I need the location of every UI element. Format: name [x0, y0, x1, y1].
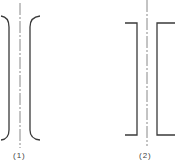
- figure-2: [125, 0, 175, 146]
- curved-bracket-left: [1, 16, 9, 140]
- figure-2-label: (2): [139, 151, 152, 160]
- figure-1-label: (1): [13, 151, 26, 160]
- square-bracket-left: [125, 23, 137, 135]
- diagram-canvas: [0, 0, 175, 163]
- square-bracket-right: [157, 23, 175, 135]
- figure-1: [1, 3, 40, 148]
- curved-bracket-right: [30, 16, 40, 140]
